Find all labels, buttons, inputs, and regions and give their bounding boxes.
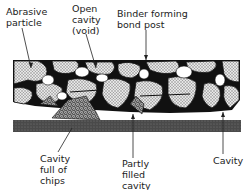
label-cavity-full-of-chips: Cavity full of chips bbox=[40, 153, 70, 186]
label-open-cavity: Open cavity (void) bbox=[72, 3, 101, 36]
label-abrasive-particle: Abrasive particle bbox=[6, 6, 47, 28]
label-cavity: Cavity bbox=[213, 155, 243, 166]
label-binder-bond-post: Binder forming bond post bbox=[117, 8, 188, 30]
label-partly-filled-cavity: Partly filled cavity bbox=[122, 158, 151, 190]
workpiece bbox=[13, 120, 241, 132]
